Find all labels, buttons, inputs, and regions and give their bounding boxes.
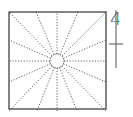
marker-label: 4 <box>110 8 121 29</box>
dimension-marker: 4 <box>109 8 123 68</box>
center-circle <box>50 54 64 68</box>
ray-line <box>9 12 52 56</box>
ray-line <box>63 64 106 82</box>
ray-line <box>60 68 77 112</box>
ray-line <box>36 12 54 55</box>
ray-line <box>37 68 54 112</box>
ray-line <box>9 64 51 82</box>
ray-line <box>62 12 106 56</box>
ray-line <box>63 40 106 58</box>
ray-line <box>60 12 78 55</box>
ray-line <box>9 40 51 58</box>
radial-square-diagram: 4 <box>0 0 133 117</box>
